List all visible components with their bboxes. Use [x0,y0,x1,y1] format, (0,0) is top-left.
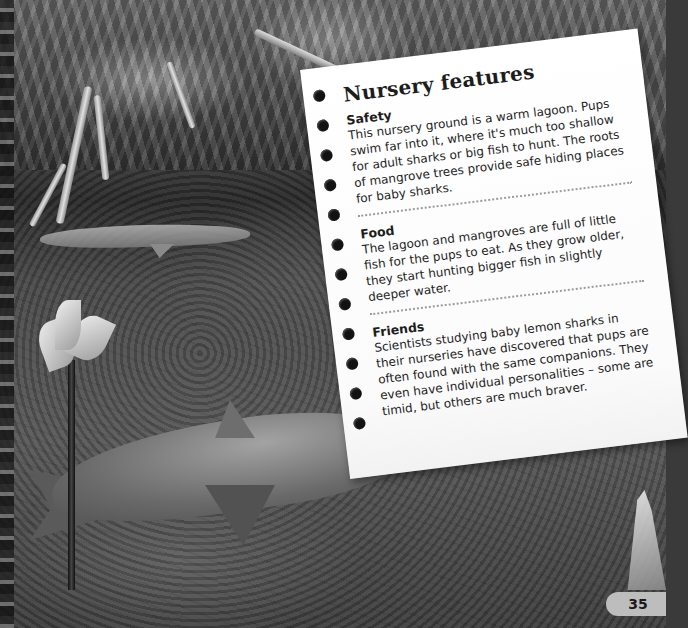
punch-hole [346,357,359,370]
punch-hole [338,298,351,311]
note-card: Nursery features Safety This nursery gro… [300,29,688,479]
page-number: 35 [606,592,666,616]
section-friends: Friends Scientists studying baby lemon s… [372,292,658,420]
punch-hole [353,417,366,430]
punch-hole [320,149,333,162]
punch-hole [349,387,362,400]
punch-hole [324,178,337,191]
punch-hole [316,119,329,132]
punch-hole [342,327,355,340]
punch-hole [335,268,348,281]
seedling-leaf [55,300,81,350]
punch-hole [327,208,340,221]
mangrove-seedling [68,360,75,590]
punch-hole [331,238,344,251]
punch-hole [313,89,326,102]
book-spine-edge [0,0,14,628]
